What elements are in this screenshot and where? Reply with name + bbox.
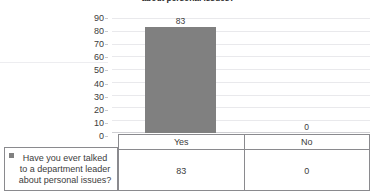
cell-no-value: 0 [244,150,370,191]
y-tick-mark [105,57,108,58]
table-row: 83 0 [119,150,369,191]
y-tick-label: 40 [94,79,104,88]
y-tick-mark [105,84,108,85]
y-tick-label: 20 [94,105,104,114]
y-tick-mark [105,44,108,45]
y-tick-mark [105,123,108,124]
chart-title: about personal issues? [0,0,376,3]
y-tick-mark [105,31,108,32]
legend-swatch-icon [9,153,14,158]
column-header-yes: Yes [119,135,244,149]
y-tick-mark [105,97,108,98]
bar-yes [145,27,216,133]
y-tick-label: 30 [94,92,104,101]
data-table: Yes No 83 0 [118,134,370,191]
legend-label: Have you ever talked to a department lea… [18,153,112,186]
y-tick-mark [105,18,108,19]
bar-value-label-yes: 83 [176,16,185,26]
y-tick-mark [105,70,108,71]
cell-yes-value: 83 [119,150,244,191]
y-axis: 90 80 70 60 50 40 30 20 10 0 [84,13,108,137]
y-tick-label: 70 [94,40,104,49]
y-tick-mark [105,136,108,137]
y-tick-label: 60 [94,53,104,62]
y-tick-mark [105,110,108,111]
gridline [112,18,370,19]
y-tick-label: 0 [99,131,104,140]
bar-value-label-no: 0 [304,122,309,132]
legend-row-header: Have you ever talked to a department lea… [4,147,118,191]
column-header-no: No [244,135,370,149]
y-tick-label: 90 [94,14,104,23]
chart-container: about personal issues? 90 80 70 60 50 40… [0,0,376,193]
y-tick-label: 50 [94,66,104,75]
table-header-row: Yes No [119,135,369,150]
y-tick-label: 80 [94,27,104,36]
plot-area: 83 0 [112,18,370,133]
y-tick-label: 10 [94,118,104,127]
